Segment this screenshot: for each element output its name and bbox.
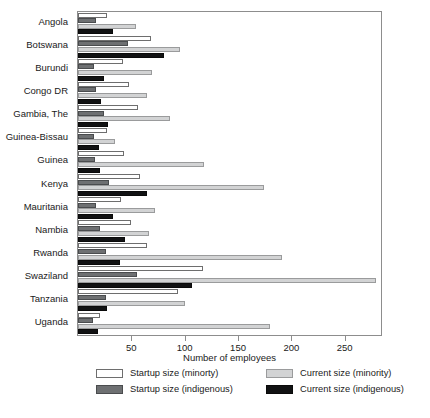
bar-current_minority [78, 255, 282, 260]
y-axis-label: Nambia [35, 225, 68, 235]
legend-item[interactable]: Startup size (minorty) [96, 368, 218, 379]
bar-current_indigenous [78, 283, 192, 288]
legend-label: Current size (minority) [300, 368, 391, 379]
bar-group [78, 289, 381, 312]
y-axis-label: Guinea-Bissau [6, 132, 68, 142]
y-axis-label: Guinea [37, 155, 68, 165]
legend-label: Startup size (indigenous) [130, 384, 233, 395]
bar-startup_indigenous [78, 318, 93, 323]
y-axis-label: Gambia, The [13, 109, 68, 119]
bar-startup_indigenous [78, 226, 100, 231]
bar-current_minority [78, 324, 270, 329]
y-axis-label: Uganda [35, 317, 68, 327]
x-tick-mark [238, 336, 239, 341]
bar-current_minority [78, 93, 147, 98]
x-tick-mark [131, 336, 132, 341]
legend-label: Startup size (minorty) [130, 368, 218, 379]
bar-group [78, 12, 381, 35]
bar-current_indigenous [78, 99, 101, 104]
legend-swatch-sm [96, 369, 123, 378]
bar-group [78, 266, 381, 289]
bar-startup_indigenous [78, 180, 109, 185]
bar-current_indigenous [78, 214, 113, 219]
bar-current_indigenous [78, 76, 104, 81]
bar-group [78, 312, 381, 335]
bar-current_minority [78, 139, 115, 144]
bar-group [78, 197, 381, 220]
bar-current_indigenous [78, 237, 125, 242]
bar-group [78, 81, 381, 104]
bar-startup_indigenous [78, 41, 128, 46]
y-axis-label: Mauritania [24, 202, 68, 212]
bar-group [78, 220, 381, 243]
x-tick-mark [345, 336, 346, 341]
bar-group [78, 58, 381, 81]
bar-group [78, 243, 381, 266]
bar-startup_indigenous [78, 111, 104, 116]
bar-current_indigenous [78, 329, 98, 334]
bar-group [78, 127, 381, 150]
x-axis-title: Number of employees [77, 352, 382, 363]
legend-item[interactable]: Current size (indigenous) [266, 384, 404, 395]
bar-startup_minority [78, 82, 129, 87]
bar-startup_minority [78, 313, 100, 318]
bar-startup_indigenous [78, 18, 96, 23]
bar-startup_indigenous [78, 295, 106, 300]
bar-group [78, 174, 381, 197]
legend-swatch-si [96, 385, 123, 394]
bar-current_minority [78, 185, 264, 190]
bar-current_indigenous [78, 29, 113, 34]
bar-startup_indigenous [78, 272, 137, 277]
plot-area [77, 11, 382, 336]
bars-layer [78, 12, 381, 335]
y-axis-label: Tanzania [30, 294, 68, 304]
legend-item[interactable]: Startup size (indigenous) [96, 384, 233, 395]
y-axis-label: Rwanda [33, 248, 68, 258]
legend-item[interactable]: Current size (minority) [266, 368, 391, 379]
bar-startup_minority [78, 36, 151, 41]
bar-startup_minority [78, 128, 107, 133]
y-axis-labels: AngolaBotswanaBurundiCongo DRGambia, The… [0, 11, 74, 336]
bar-current_minority [78, 70, 152, 75]
bar-current_indigenous [78, 260, 120, 265]
bar-startup_indigenous [78, 157, 95, 162]
bar-current_indigenous [78, 53, 164, 58]
bar-current_minority [78, 24, 136, 29]
y-axis-label: Burundi [35, 63, 68, 73]
y-axis-label: Kenya [41, 179, 68, 189]
bar-current_minority [78, 208, 155, 213]
bar-startup_minority [78, 197, 121, 202]
legend-label: Current size (indigenous) [300, 384, 404, 395]
bar-current_minority [78, 162, 204, 167]
bar-startup_indigenous [78, 87, 96, 92]
x-tick-mark [185, 336, 186, 341]
bar-startup_indigenous [78, 203, 96, 208]
bar-current_minority [78, 301, 185, 306]
bar-startup_minority [78, 105, 138, 110]
bar-startup_indigenous [78, 64, 94, 69]
bar-current_minority [78, 47, 180, 52]
bar-current_indigenous [78, 145, 99, 150]
bar-startup_minority [78, 59, 123, 64]
bar-current_minority [78, 116, 170, 121]
bar-startup_minority [78, 151, 124, 156]
bar-startup_minority [78, 220, 131, 225]
bar-startup_minority [78, 266, 203, 271]
bar-current_minority [78, 231, 149, 236]
bar-group [78, 35, 381, 58]
bar-current_indigenous [78, 122, 108, 127]
bar-startup_indigenous [78, 134, 94, 139]
bar-startup_minority [78, 243, 147, 248]
bar-current_indigenous [78, 168, 100, 173]
y-axis-label: Congo DR [24, 86, 68, 96]
chart-legend: Startup size (minorty)Startup size (indi… [96, 368, 426, 404]
y-axis-label: Angola [38, 17, 68, 27]
bar-current_minority [78, 278, 376, 283]
y-axis-label: Botswana [26, 40, 68, 50]
bar-group [78, 150, 381, 173]
bar-current_indigenous [78, 306, 107, 311]
bar-startup_indigenous [78, 249, 106, 254]
bar-startup_minority [78, 174, 140, 179]
x-tick-mark [291, 336, 292, 341]
y-axis-label: Swaziland [25, 271, 68, 281]
